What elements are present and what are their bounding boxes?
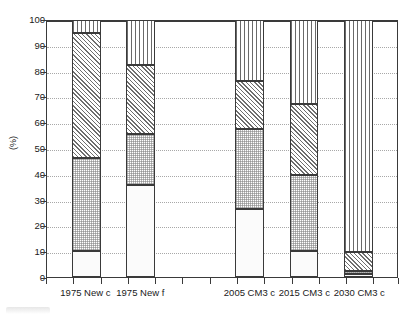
bar-segment-blank[interactable] (235, 209, 264, 277)
x-tick-mark (346, 278, 347, 284)
bar-segment-dots[interactable] (235, 129, 264, 209)
y-tick-label: 40 (5, 170, 45, 180)
bar-segment-vertical-lines[interactable] (126, 20, 155, 65)
bar-segment-blank[interactable] (126, 185, 155, 277)
x-tick-mark (46, 278, 47, 284)
x-tick-mark (182, 278, 183, 284)
y-tick-label: 50 (5, 144, 45, 154)
bar-segment-vertical-lines[interactable] (344, 20, 373, 252)
bar-segment-diagonal-hatch[interactable] (126, 65, 155, 133)
x-tick-label: 2030 CM3 c (327, 287, 391, 299)
y-tick-label: 60 (5, 118, 45, 128)
bar-segment-vertical-lines[interactable] (235, 20, 264, 81)
y-tick-label: 100 (5, 15, 45, 25)
y-tick-label: 30 (5, 196, 45, 206)
bar-segment-vertical-lines[interactable] (72, 20, 101, 33)
x-axis-labels: 1975 New c1975 New f2005 CM3 c2015 CM3 c… (0, 287, 411, 303)
x-tick-mark (398, 278, 399, 284)
bar-2015-cm3-c[interactable] (290, 20, 319, 277)
y-tick-label: 80 (5, 67, 45, 77)
bar-segment-diagonal-hatch[interactable] (235, 81, 264, 129)
x-tick-mark (210, 278, 211, 284)
bar-segment-diagonal-hatch[interactable] (72, 33, 101, 158)
bar-segment-vertical-lines[interactable] (290, 20, 319, 104)
plot-area (46, 20, 398, 278)
bar-segment-blank[interactable] (72, 251, 101, 277)
bar-segment-blank[interactable] (290, 251, 319, 277)
bar-2030-cm3-c[interactable] (344, 20, 373, 277)
bar-segment-dots[interactable] (344, 271, 373, 275)
x-tick-mark (264, 278, 265, 284)
bar-2005-cm3-c[interactable] (235, 20, 264, 277)
x-tick-mark (73, 278, 74, 284)
y-tick-label: 10 (5, 247, 45, 257)
bar-1975-new-c[interactable] (72, 20, 101, 277)
bar-segment-dots[interactable] (126, 134, 155, 186)
x-tick-mark (373, 278, 374, 284)
x-tick-mark (237, 278, 238, 284)
x-tick-mark (319, 278, 320, 284)
x-tick-label: 1975 New f (108, 287, 172, 299)
y-tick-label: 0 (5, 273, 45, 283)
y-axis-ticks: 0102030405060708090100 (0, 20, 45, 278)
x-tick-mark (128, 278, 129, 284)
x-tick-mark (101, 278, 102, 284)
bar-segment-diagonal-hatch[interactable] (290, 104, 319, 175)
x-tick-mark (292, 278, 293, 284)
bar-segment-diagonal-hatch[interactable] (344, 252, 373, 270)
x-tick-mark (155, 278, 156, 284)
scan-artifact (6, 307, 50, 314)
bar-segment-dots[interactable] (290, 175, 319, 251)
y-tick-label: 20 (5, 221, 45, 231)
bar-segment-blank[interactable] (344, 274, 373, 277)
bar-1975-new-f[interactable] (126, 20, 155, 277)
y-tick-label: 70 (5, 92, 45, 102)
y-tick-label: 90 (5, 41, 45, 51)
bar-segment-dots[interactable] (72, 158, 101, 251)
stacked-bar-chart: (%) 0102030405060708090100 1975 New c197… (0, 0, 411, 317)
x-axis-ticks (46, 278, 398, 286)
